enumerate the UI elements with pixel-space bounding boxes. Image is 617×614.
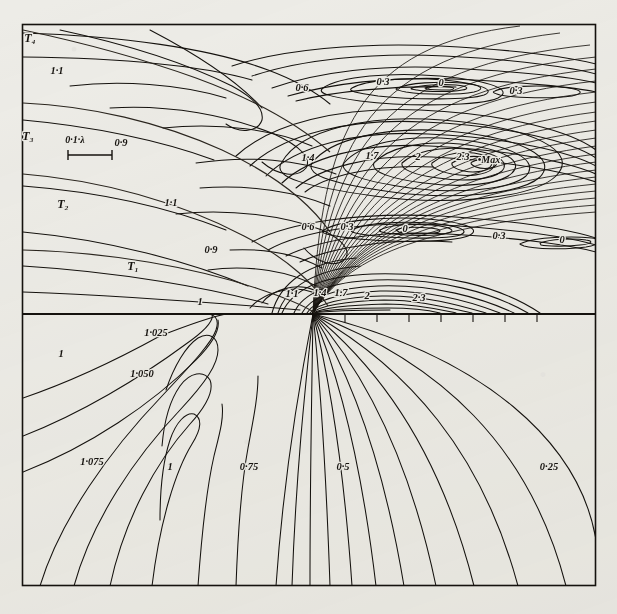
upper-contour-label-3: 1·1 (164, 197, 177, 208)
upper-contour-label-4: 0·9 (204, 244, 218, 255)
upper-contour-label-23: 2·3 (411, 292, 425, 303)
lower-fan (276, 314, 596, 586)
upper-contour-label-1: 1·1 (50, 65, 63, 76)
lower-contour-label-7: 0·5 (336, 461, 349, 472)
upper-contour-label-12: 2 (414, 151, 421, 162)
focus-fan (313, 26, 596, 313)
upper-contour-label-10: 1·4 (301, 152, 314, 163)
upper-contour-label-20: 1·4 (313, 287, 326, 298)
ray-T2 (23, 174, 328, 306)
lower-contour-label-5: 1 (167, 461, 172, 472)
lobe-band-top (232, 45, 596, 105)
upper-contour-label-7: 0·3 (376, 76, 389, 87)
ray-label-3: T₂ (57, 197, 69, 211)
scale-bar-label: 0·1·λ (65, 134, 85, 145)
upper-contour-label-8: 0 (438, 77, 444, 88)
upper-contour-label-5: 1 (197, 296, 202, 307)
upper-contour-label-19: 1·1 (285, 288, 298, 299)
lower-contour-label-group: 11·0251·0501·07510·750·50·25 (58, 327, 558, 472)
upper-contour-label-17: 0·3 (492, 230, 505, 241)
upper-panel-contours (23, 26, 600, 313)
upper-contour-label-13: 2·3 (455, 151, 469, 162)
lower-contour-label-6: 0·75 (240, 461, 258, 472)
lower-contour-label-1: 1 (58, 348, 63, 359)
upper-contour-label-22: 2 (363, 290, 370, 301)
upper-contour-label-6: 0·6 (295, 82, 309, 93)
upper-contour-label-15: 0·3 (340, 221, 353, 232)
ray-label-2: T₃ (22, 129, 34, 143)
upper-contour-label-14: 0·6 (301, 221, 315, 232)
upper-contour-label-16: 0 (402, 223, 408, 234)
upper-contour-label-2: 0·9 (114, 137, 128, 148)
lower-contour-label-3: 1·050 (130, 368, 154, 379)
lower-contour-label-4: 1·075 (80, 456, 104, 467)
scale-bar (68, 150, 112, 160)
upper-contour-label-11: 1·7 (365, 150, 379, 161)
upper-contour-label-18: 0 (559, 234, 565, 245)
max-marker-label: •Max (478, 154, 500, 165)
ray-label-1: T₄ (24, 31, 36, 45)
upper-contour-label-21: 1·7 (334, 287, 348, 298)
ray-label-4: T₁ (127, 259, 139, 273)
figure-root: T₄T₃T₂T₁ 1·10·91·10·910·60·300·31·41·722… (0, 0, 617, 614)
ray-label-group: T₄T₃T₂T₁ (22, 31, 139, 273)
divider-ticks (313, 314, 537, 322)
upper-contour-label-9: 0·3 (509, 85, 522, 96)
lower-contour-label-8: 0·25 (540, 461, 558, 472)
ray-lines (23, 30, 330, 313)
lower-contour-label-2: 1·025 (144, 327, 168, 338)
lower-panel-contours (23, 314, 596, 586)
contour-plot-canvas: T₄T₃T₂T₁ 1·10·91·10·910·60·300·31·41·722… (0, 0, 617, 614)
